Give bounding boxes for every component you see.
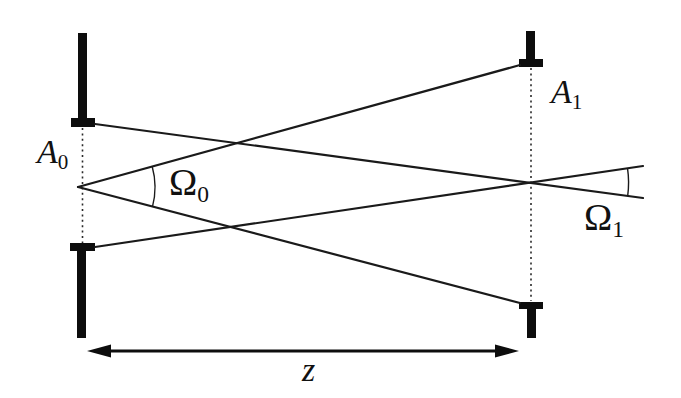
omega1-angle-arc bbox=[628, 168, 629, 196]
figure-canvas: A0 A1 Ω0 Ω1 z bbox=[0, 0, 681, 398]
aperture-A1-top-blade bbox=[526, 31, 535, 59]
label-omega0-letter: Ω bbox=[169, 161, 197, 203]
z-arrow-right-head bbox=[495, 345, 519, 358]
label-A1-letter: A bbox=[551, 73, 572, 110]
aperture-A0-top-blade-lip bbox=[71, 118, 95, 127]
aperture-A0-top-blade bbox=[78, 33, 87, 118]
label-A0-subscript: 0 bbox=[58, 150, 69, 174]
label-omega1-subscript: 1 bbox=[612, 216, 624, 242]
label-omega1-letter: Ω bbox=[584, 196, 612, 238]
label-omega0-subscript: 0 bbox=[197, 181, 209, 207]
label-z: z bbox=[302, 353, 315, 387]
aperture-A1-bottom-blade-lip bbox=[519, 302, 543, 309]
label-omega1: Ω1 bbox=[584, 198, 624, 241]
label-z-letter: z bbox=[302, 351, 315, 388]
aperture-A0-bottom-blade bbox=[77, 251, 86, 338]
z-arrow-left-head bbox=[87, 345, 111, 358]
label-omega0: Ω0 bbox=[169, 163, 209, 206]
aperture-A1-top-blade-lip bbox=[519, 59, 543, 67]
ray-A0-center-to-A1-bottom-edge bbox=[78, 187, 520, 303]
label-A0-letter: A bbox=[37, 133, 58, 170]
label-A0: A0 bbox=[37, 135, 68, 173]
label-A1-subscript: 1 bbox=[572, 90, 583, 114]
label-A1: A1 bbox=[551, 75, 582, 113]
aperture-A0-bottom-blade-lip bbox=[70, 243, 95, 251]
omega0-angle-arc bbox=[152, 167, 155, 207]
ray-A0-center-to-A1-top-edge bbox=[78, 65, 520, 187]
diagram-svg bbox=[0, 0, 681, 398]
aperture-A1-bottom-blade bbox=[527, 309, 536, 338]
